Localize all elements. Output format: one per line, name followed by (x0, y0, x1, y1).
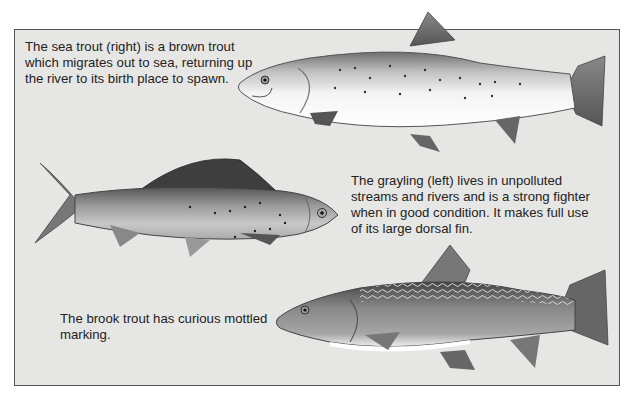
brook-trout-illustration (270, 240, 615, 375)
grayling-caption: The grayling (left) lives in unpolluted … (351, 173, 591, 237)
brook-trout-caption: The brook trout has curious mottled mark… (60, 311, 270, 343)
sea-trout-caption: The sea trout (right) is a brown trout w… (25, 39, 265, 87)
sea-trout-illustration (230, 8, 610, 148)
